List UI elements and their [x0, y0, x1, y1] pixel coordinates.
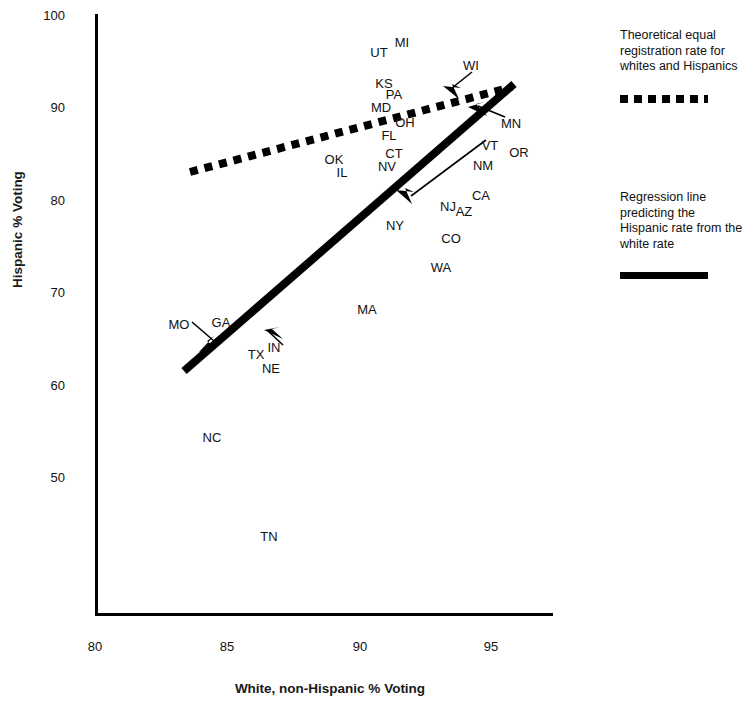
- legend-label-theoretical: Theoretical equal registration rate for …: [620, 28, 745, 75]
- legend-swatch-solid-line: [620, 272, 708, 279]
- data-point-il: IL: [337, 166, 348, 179]
- data-point-or: OR: [509, 146, 529, 159]
- regression-line: [184, 84, 514, 371]
- data-point-nc: NC: [203, 431, 222, 444]
- x-tick-90: 90: [340, 640, 380, 653]
- data-point-ut: UT: [370, 46, 387, 59]
- data-point-ne: NE: [262, 362, 280, 375]
- data-point-oh: OH: [395, 116, 415, 129]
- data-point-fl: FL: [381, 129, 396, 142]
- arrow-marker-tx: [264, 327, 283, 339]
- arrow-marker-mn: [468, 102, 487, 116]
- data-point-ma: MA: [357, 303, 377, 316]
- leader-line-wi: [452, 72, 472, 88]
- data-point-mo: MO: [169, 318, 190, 331]
- data-point-ny: NY: [386, 219, 404, 232]
- x-tick-95: 95: [471, 640, 511, 653]
- scatter-chart: 100 90 80 70 60 50 80 85 90 95 Hispanic …: [0, 0, 750, 701]
- x-tick-80: 80: [75, 640, 115, 653]
- data-point-in: IN: [268, 341, 281, 354]
- data-point-ca: CA: [472, 189, 490, 202]
- data-point-nv: NV: [378, 160, 396, 173]
- data-point-az: AZ: [456, 205, 473, 218]
- arrow-marker-mo: [199, 336, 216, 352]
- data-point-md: MD: [371, 101, 391, 114]
- data-point-vt: VT: [482, 139, 499, 152]
- legend-swatch-dotted-line: [620, 95, 708, 103]
- legend-entry-theoretical: Theoretical equal registration rate for …: [620, 28, 745, 103]
- data-point-mi: MI: [395, 36, 409, 49]
- arrow-marker-wi: [443, 84, 461, 99]
- arrow-marker-vt: [396, 188, 414, 204]
- data-point-nj: NJ: [440, 200, 456, 213]
- legend-entry-regression: Regression line predicting the Hispanic …: [620, 190, 745, 279]
- data-point-co: CO: [441, 232, 461, 245]
- data-point-tn: TN: [260, 530, 277, 543]
- data-point-nm: NM: [473, 159, 493, 172]
- legend-label-regression: Regression line predicting the Hispanic …: [620, 190, 745, 252]
- data-point-ga: GA: [212, 316, 231, 329]
- data-point-mn: MN: [501, 117, 521, 130]
- trend-lines-overlay: [0, 0, 600, 625]
- theoretical-equal-rate-line: [190, 87, 512, 172]
- x-tick-85: 85: [207, 640, 247, 653]
- data-point-tx: TX: [248, 348, 265, 361]
- data-point-wa: WA: [431, 261, 451, 274]
- data-point-wi: WI: [463, 59, 479, 72]
- plot-area: MI UT WI KS PA MD OH MN FL VT OR CT OK N…: [0, 0, 600, 625]
- x-axis-title: White, non-Hispanic % Voting: [180, 681, 480, 696]
